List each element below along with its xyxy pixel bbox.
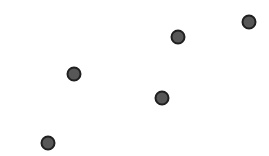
data-point <box>172 31 185 44</box>
scatter-plot <box>0 0 269 156</box>
data-point <box>68 68 81 81</box>
data-point <box>243 16 256 29</box>
data-point <box>42 137 55 150</box>
data-point <box>156 92 169 105</box>
